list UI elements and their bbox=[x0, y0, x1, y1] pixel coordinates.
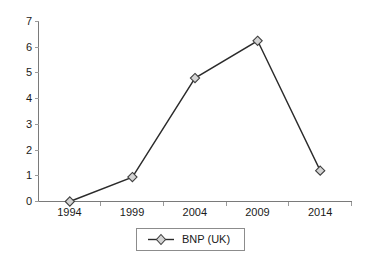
legend[interactable]: BNP (UK) bbox=[137, 229, 245, 251]
data-point-marker bbox=[316, 166, 325, 175]
data-point-marker bbox=[65, 197, 74, 206]
x-axis-labels: 1994 1999 2004 2009 2014 bbox=[57, 206, 332, 218]
chart-canvas: 7 6 5 4 3 2 1 0 bbox=[0, 0, 367, 264]
data-point-marker bbox=[190, 73, 199, 82]
data-point-marker bbox=[253, 36, 262, 45]
y-tick-label: 1 bbox=[26, 169, 32, 181]
y-tick-label: 4 bbox=[26, 92, 32, 104]
y-tick-label: 2 bbox=[26, 144, 32, 156]
series-line-bnp-uk bbox=[70, 41, 320, 202]
y-tick-label: 0 bbox=[26, 195, 32, 207]
y-tick-label: 6 bbox=[26, 41, 32, 53]
y-tick-label: 5 bbox=[26, 66, 32, 78]
x-tick-label: 1999 bbox=[120, 206, 144, 218]
y-axis-ticks bbox=[35, 22, 39, 202]
x-tick-label: 2014 bbox=[308, 206, 332, 218]
y-tick-label: 7 bbox=[26, 15, 32, 27]
y-tick-label: 3 bbox=[26, 118, 32, 130]
y-axis-labels: 7 6 5 4 3 2 1 0 bbox=[26, 15, 32, 207]
legend-label: BNP (UK) bbox=[182, 233, 230, 245]
x-axis-ticks bbox=[101, 202, 352, 206]
x-tick-label: 2009 bbox=[245, 206, 269, 218]
x-tick-label: 1994 bbox=[57, 206, 81, 218]
data-point-marker bbox=[128, 172, 137, 181]
series-markers bbox=[65, 36, 325, 206]
x-tick-label: 2004 bbox=[183, 206, 207, 218]
line-chart: 7 6 5 4 3 2 1 0 bbox=[0, 0, 367, 264]
